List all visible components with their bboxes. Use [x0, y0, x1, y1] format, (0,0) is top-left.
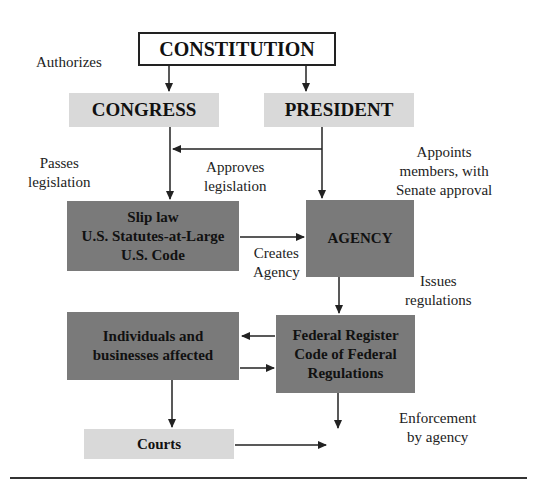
- creates-agency-label: Creates Agency: [253, 244, 300, 282]
- slip-law-line-3: U.S. Code: [121, 246, 185, 265]
- slip-law-line-2: U.S. Statutes-at-Large: [82, 227, 225, 246]
- individuals-box: Individuals and businesses affected: [67, 312, 239, 380]
- federal-register-line-1: Federal Register: [292, 326, 398, 345]
- agency-label: AGENCY: [327, 229, 392, 248]
- individuals-line-1: Individuals and: [103, 327, 203, 346]
- federal-register-line-2: Code of Federal: [294, 345, 396, 364]
- slip-law-line-1: Slip law: [127, 208, 178, 227]
- courts-label: Courts: [137, 436, 181, 453]
- enforcement-label: Enforcement by agency: [399, 409, 476, 447]
- approves-legislation-label: Approves legislation: [204, 158, 267, 196]
- president-box: PRESIDENT: [264, 93, 414, 127]
- congress-box: CONGRESS: [69, 93, 219, 127]
- federal-register-line-3: Regulations: [308, 364, 384, 383]
- federal-register-box: Federal Register Code of Federal Regulat…: [276, 315, 415, 393]
- courts-box: Courts: [84, 429, 234, 459]
- congress-label: CONGRESS: [92, 99, 197, 121]
- authorizes-label: Authorizes: [36, 53, 102, 72]
- agency-box: AGENCY: [306, 200, 414, 277]
- constitution-box: CONSTITUTION: [138, 32, 336, 66]
- slip-law-box: Slip law U.S. Statutes-at-Large U.S. Cod…: [67, 201, 239, 271]
- appoints-members-label: Appoints members, with Senate approval: [396, 143, 492, 200]
- issues-regulations-label: Issues regulations: [405, 272, 472, 310]
- president-label: PRESIDENT: [285, 99, 394, 121]
- passes-legislation-label: Passes legislation: [28, 154, 91, 192]
- constitution-label: CONSTITUTION: [159, 38, 315, 61]
- bottom-divider: [10, 477, 527, 479]
- individuals-line-2: businesses affected: [93, 346, 213, 365]
